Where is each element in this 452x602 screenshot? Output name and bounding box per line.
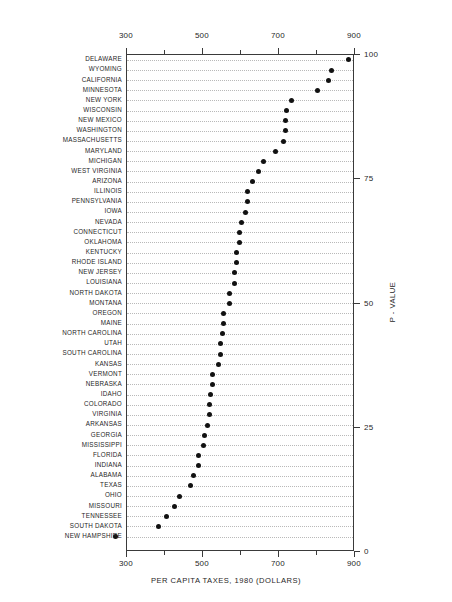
state-label: TENNESSEE bbox=[0, 512, 122, 519]
state-label: NEW YORK bbox=[0, 96, 122, 103]
state-label: WEST VIRGINIA bbox=[0, 167, 122, 174]
guide-row bbox=[127, 263, 353, 264]
guide-row bbox=[127, 212, 353, 213]
data-point bbox=[283, 118, 288, 123]
guide-row bbox=[127, 80, 353, 81]
x-tick-label: 500 bbox=[195, 559, 209, 568]
state-label: LOUISIANA bbox=[0, 278, 122, 285]
y-axis-tick bbox=[354, 551, 360, 552]
guide-row bbox=[127, 466, 353, 467]
x-tick-label: 300 bbox=[119, 31, 133, 40]
state-label: UTAH bbox=[0, 339, 122, 346]
state-label: KANSAS bbox=[0, 360, 122, 367]
data-point bbox=[239, 220, 244, 225]
state-label: WYOMING bbox=[0, 65, 122, 72]
state-label: NORTH DAKOTA bbox=[0, 289, 122, 296]
state-label: OREGON bbox=[0, 309, 122, 316]
x-axis-tick bbox=[316, 50, 317, 54]
guide-row bbox=[127, 354, 353, 355]
data-point bbox=[329, 68, 334, 73]
state-label: WISCONSIN bbox=[0, 106, 122, 113]
x-axis-tick bbox=[164, 551, 165, 555]
data-point bbox=[196, 453, 201, 458]
guide-row bbox=[127, 70, 353, 71]
y-tick-label: 75 bbox=[364, 174, 374, 183]
guide-row bbox=[127, 395, 353, 396]
x-axis-title: PER CAPITA TAXES, 1980 (DOLLARS) bbox=[0, 576, 452, 585]
guide-row bbox=[127, 486, 353, 487]
state-label: MISSISSIPPI bbox=[0, 441, 122, 448]
state-label: COLORADO bbox=[0, 400, 122, 407]
guide-row bbox=[127, 111, 353, 112]
data-point bbox=[196, 463, 201, 468]
state-label: MASSACHUSETTS bbox=[0, 136, 122, 143]
guide-row bbox=[127, 313, 353, 314]
x-tick-label: 700 bbox=[271, 559, 285, 568]
state-label: VERMONT bbox=[0, 370, 122, 377]
state-label: ARKANSAS bbox=[0, 420, 122, 427]
state-label: PENNSYLVANIA bbox=[0, 197, 122, 204]
data-point bbox=[273, 149, 278, 154]
data-point bbox=[221, 321, 226, 326]
data-point bbox=[201, 443, 206, 448]
state-label: WASHINGTON bbox=[0, 126, 122, 133]
x-tick-label: 900 bbox=[347, 31, 361, 40]
guide-row bbox=[127, 405, 353, 406]
state-label: INDIANA bbox=[0, 461, 122, 468]
data-point bbox=[346, 57, 351, 62]
data-point bbox=[221, 311, 226, 316]
state-label: NORTH CAROLINA bbox=[0, 329, 122, 336]
guide-row bbox=[127, 516, 353, 517]
state-label: OHIO bbox=[0, 491, 122, 498]
guide-row bbox=[127, 374, 353, 375]
x-axis-tick bbox=[240, 551, 241, 555]
x-axis-tick bbox=[126, 551, 127, 557]
per-capita-taxes-dot-chart: DELAWAREWYOMINGCALIFORNIAMINNESOTANEW YO… bbox=[0, 0, 452, 602]
plot-area bbox=[126, 54, 354, 551]
state-label: SOUTH DAKOTA bbox=[0, 522, 122, 529]
state-label: MINNESOTA bbox=[0, 86, 122, 93]
data-point bbox=[289, 98, 294, 103]
state-label: SOUTH CAROLINA bbox=[0, 349, 122, 356]
data-point bbox=[227, 291, 232, 296]
data-point bbox=[191, 473, 196, 478]
data-point bbox=[281, 139, 286, 144]
guide-row bbox=[127, 476, 353, 477]
data-point bbox=[232, 281, 237, 286]
guide-row bbox=[127, 283, 353, 284]
guide-row bbox=[127, 121, 353, 122]
state-label: DELAWARE bbox=[0, 55, 122, 62]
x-tick-label: 300 bbox=[119, 559, 133, 568]
x-axis-tick bbox=[316, 551, 317, 555]
guide-row bbox=[127, 334, 353, 335]
state-label: MISSOURI bbox=[0, 502, 122, 509]
guide-row bbox=[127, 506, 353, 507]
state-label: CALIFORNIA bbox=[0, 76, 122, 83]
state-label: GEORGIA bbox=[0, 431, 122, 438]
state-label: MICHIGAN bbox=[0, 157, 122, 164]
data-point bbox=[218, 341, 223, 346]
x-axis-tick bbox=[202, 48, 203, 54]
data-point bbox=[284, 108, 289, 113]
y-tick-label: 100 bbox=[364, 50, 378, 59]
y-axis-tick bbox=[354, 54, 360, 55]
data-point bbox=[315, 88, 320, 93]
data-point bbox=[243, 210, 248, 215]
guide-row bbox=[127, 496, 353, 497]
guide-row bbox=[127, 161, 353, 162]
state-label: NEW MEXICO bbox=[0, 116, 122, 123]
state-label: TEXAS bbox=[0, 481, 122, 488]
data-point bbox=[261, 159, 266, 164]
y-tick-label: 50 bbox=[364, 298, 374, 307]
state-label: NEVADA bbox=[0, 218, 122, 225]
y-tick-label: 25 bbox=[364, 422, 374, 431]
state-label: NEW HAMPSHIRE bbox=[0, 532, 122, 539]
guide-row bbox=[127, 273, 353, 274]
data-point bbox=[207, 412, 212, 417]
guide-row bbox=[127, 384, 353, 385]
data-point bbox=[245, 199, 250, 204]
data-point bbox=[205, 423, 210, 428]
state-label: MONTANA bbox=[0, 299, 122, 306]
x-axis-tick bbox=[240, 50, 241, 54]
data-point bbox=[256, 169, 261, 174]
